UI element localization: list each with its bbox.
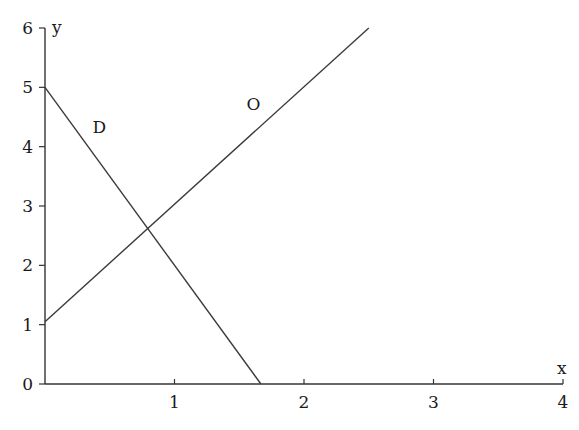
axes: [45, 28, 563, 384]
y-tick-label: 5: [22, 77, 33, 97]
x-tick-label: 3: [428, 392, 439, 412]
series-label-d: D: [93, 117, 107, 137]
series-label-o: O: [247, 94, 261, 114]
y-tick-label: 0: [22, 374, 33, 394]
y-tick-label: 6: [22, 18, 33, 38]
series-line-o: [45, 28, 369, 322]
x-tick-label: 1: [169, 392, 180, 412]
x-tick-label: 2: [299, 392, 310, 412]
y-tick-label: 1: [22, 315, 33, 335]
series-line-d: [45, 87, 261, 384]
y-axis-label: y: [51, 17, 62, 37]
x-axis-label: x: [557, 358, 567, 378]
y-tick-label: 3: [22, 196, 33, 216]
x-tick-label: 4: [558, 392, 569, 412]
chart: 1234 0123456 DO x y: [0, 0, 579, 430]
y-tick-label: 4: [22, 137, 33, 157]
y-ticks: 0123456: [22, 18, 45, 394]
series: DO: [45, 28, 369, 384]
y-tick-label: 2: [22, 255, 33, 275]
